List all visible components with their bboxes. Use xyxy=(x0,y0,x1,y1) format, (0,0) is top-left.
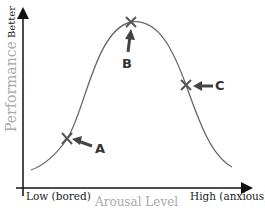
point-a-label: A xyxy=(95,141,105,156)
y-axis-top-label: Better xyxy=(6,6,17,38)
x-axis-low-label: Low (bored) xyxy=(26,190,91,202)
diagram-canvas xyxy=(0,0,265,210)
y-axis-label: Performance xyxy=(3,41,19,132)
point-a-marker xyxy=(62,133,72,144)
point-c-marker xyxy=(181,80,191,90)
arrow-c-icon xyxy=(193,81,213,91)
x-axis-label: Arousal Level xyxy=(95,195,178,209)
point-c-label: C xyxy=(215,78,225,93)
performance-curve xyxy=(31,22,232,170)
point-b-label: B xyxy=(122,56,132,71)
arrow-a-icon xyxy=(72,136,92,146)
arrow-b-icon xyxy=(125,29,135,52)
x-axis-high-label: High (anxious) xyxy=(190,190,265,202)
